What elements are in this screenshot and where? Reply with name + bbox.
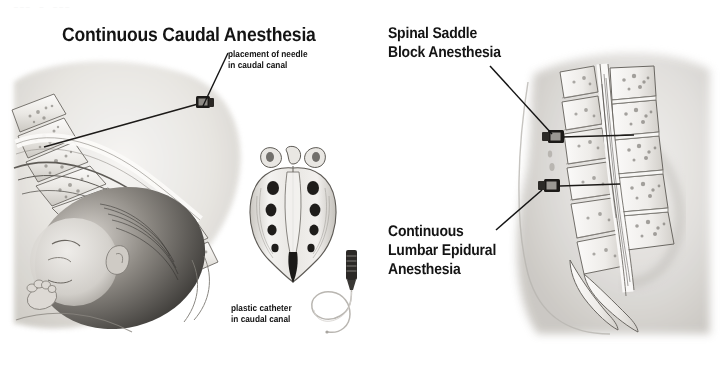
catheter-caption-line2: in caudal canal: [231, 315, 290, 325]
spinal-saddle-callout-leader: [480, 64, 560, 142]
needle-caption-line2: in caudal canal: [228, 61, 287, 71]
catheter-caption-line1: plastic catheter: [231, 304, 292, 314]
right-lower-title-line2: Lumbar Epidural: [388, 243, 496, 260]
right-lower-title-line3: Anesthesia: [388, 262, 461, 279]
needle-hub: [346, 250, 357, 290]
needle-caption-line1: placement of needle: [228, 50, 307, 60]
lumbar-epidural-callout-leader: [492, 188, 550, 234]
page-title-continuous-caudal-anesthesia: Continuous Caudal Anesthesia: [62, 25, 316, 46]
faint-top-marks: ___ _ ___: [14, 1, 71, 8]
center-illustration-catheter-device: [306, 246, 374, 338]
plastic-catheter-tubing: [312, 290, 352, 332]
right-lower-title-line1: Continuous: [388, 224, 464, 241]
right-upper-title-line1: Spinal Saddle: [388, 26, 477, 43]
illustration-page: ___ _ ___: [0, 0, 724, 375]
right-upper-title-line2: Block Anesthesia: [388, 45, 501, 62]
